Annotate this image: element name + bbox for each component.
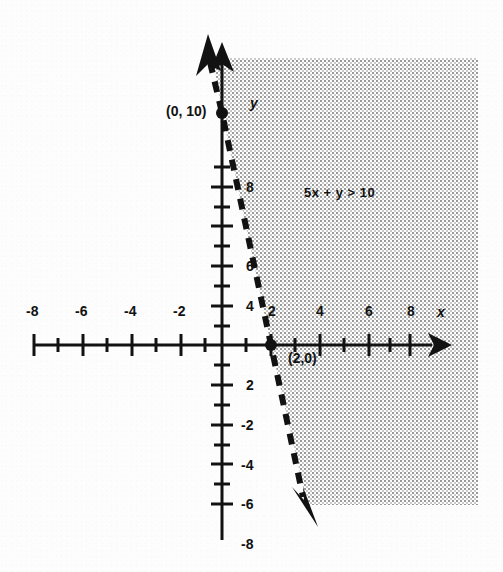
coordinate-plane-svg xyxy=(0,0,503,572)
y-tick-label-2: 2 xyxy=(246,378,254,392)
x-tick-label--4: -4 xyxy=(124,304,136,318)
y-tick-label--2: -2 xyxy=(241,418,253,432)
y-tick-label-8: 8 xyxy=(246,180,254,194)
label-y-intercept: (0, 10) xyxy=(166,104,206,118)
x-tick-label-8: 8 xyxy=(407,304,415,318)
point-marker-x-intercept xyxy=(265,339,277,351)
x-axis-label: x xyxy=(437,305,445,319)
x-tick-label--6: -6 xyxy=(75,304,87,318)
label-inequality: 5x + y > 10 xyxy=(304,186,375,199)
x-tick-label-2: 2 xyxy=(268,304,276,318)
label-x-intercept: (2,0) xyxy=(288,351,317,365)
point-marker-y-intercept xyxy=(216,107,228,119)
y-tick-label--8: -8 xyxy=(241,537,253,551)
x-tick-label-6: 6 xyxy=(365,304,373,318)
x-tick-label--8: -8 xyxy=(26,304,38,318)
y-tick-label--6: -6 xyxy=(241,497,253,511)
y-axis-label: y xyxy=(250,96,258,110)
x-tick-label-4: 4 xyxy=(316,304,324,318)
x-tick-label--2: -2 xyxy=(173,304,185,318)
shaded-solution-region xyxy=(205,58,478,505)
y-tick-label-6: 6 xyxy=(246,259,254,273)
y-tick-label--4: -4 xyxy=(241,458,253,472)
y-tick-label-4: 4 xyxy=(246,299,254,313)
graph-figure: -8 -6 -4 -2 2 4 6 8 8 6 4 2 -2 -4 -6 -8 … xyxy=(0,0,503,572)
